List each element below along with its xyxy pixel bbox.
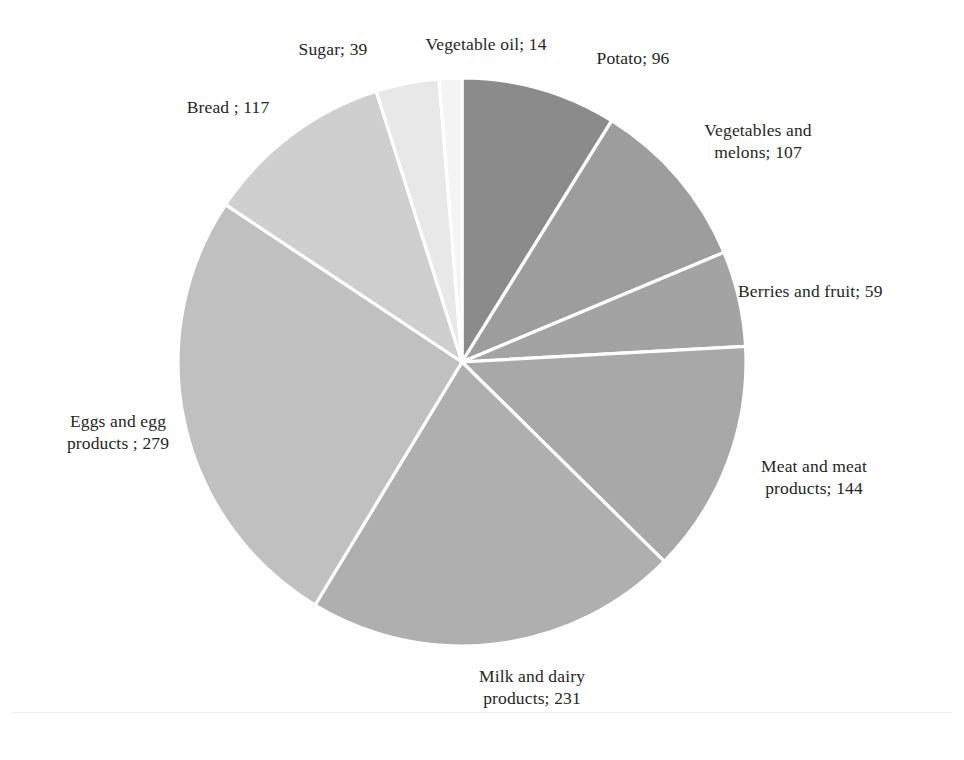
scan-edge-line	[12, 712, 952, 713]
pie-label-vegetables-and-melons: Vegetables and melons; 107	[668, 119, 848, 164]
pie-chart-canvas	[0, 0, 964, 760]
pie-label-sugar: Sugar; 39	[268, 38, 398, 60]
pie-label-meat-and-meat-products: Meat and meat products; 144	[724, 455, 904, 500]
pie-chart-figure: Potato; 96 Vegetables and melons; 107 Be…	[0, 0, 964, 760]
pie-label-milk-and-dairy-products: Milk and dairy products; 231	[437, 665, 627, 710]
pie-label-vegetable-oil: Vegetable oil; 14	[396, 33, 576, 55]
pie-label-bread: Bread ; 117	[148, 96, 308, 118]
pie-label-eggs-and-egg-products: Eggs and egg products ; 279	[28, 410, 208, 455]
pie-label-berries-and-fruit: Berries and fruit; 59	[738, 280, 958, 302]
pie-slices-group	[178, 78, 746, 646]
pie-label-potato: Potato; 96	[553, 47, 713, 69]
